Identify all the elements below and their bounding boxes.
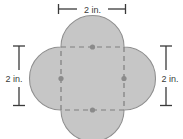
dimension-right-group: 2 in. [160, 46, 179, 106]
dot-left-icon [58, 76, 63, 81]
dimension-left-group: 2 in. [5, 46, 25, 106]
quatrefoil-diagram: 2 in. 2 in. 2 in. [0, 0, 183, 139]
quatrefoil-shape-group [30, 16, 156, 139]
geometry-figure-container: 2 in. 2 in. 2 in. [0, 0, 183, 139]
dimension-top-group: 2 in. [59, 4, 126, 15]
dimension-right-label: 2 in. [161, 74, 178, 84]
dot-right-icon [121, 76, 126, 81]
quatrefoil-texture-overlay [30, 16, 156, 139]
dimension-left-label: 2 in. [5, 74, 22, 84]
dimension-top-label: 2 in. [84, 5, 101, 15]
dot-bottom-icon [90, 107, 95, 112]
dot-top-icon [90, 44, 95, 49]
